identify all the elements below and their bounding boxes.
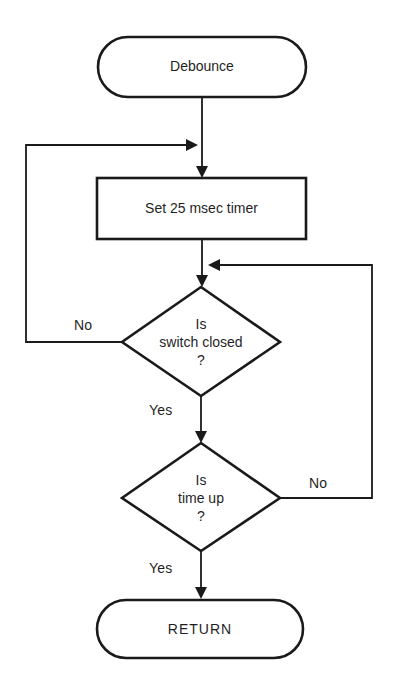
- arrowhead-loop-right: [208, 259, 220, 271]
- arrowhead-into-timer: [196, 166, 208, 178]
- process-set-timer-label: Set 25 msec timer: [97, 200, 306, 217]
- decision-switch-closed-line3: ?: [122, 352, 280, 369]
- arrowhead-into-timeup: [195, 431, 207, 443]
- edge-time-no-loop: [216, 265, 372, 498]
- edge-label-time-no: No: [309, 475, 327, 492]
- decision-time-up-line3: ?: [122, 508, 280, 525]
- decision-time-up-line2: time up: [122, 490, 280, 507]
- terminal-end-label: RETURN: [97, 621, 303, 638]
- edge-label-time-yes: Yes: [149, 560, 172, 577]
- decision-switch-closed-line1: Is: [122, 316, 280, 333]
- arrowhead-loop-left: [186, 139, 198, 151]
- decision-time-up-line1: Is: [122, 472, 280, 489]
- decision-switch-closed-line2: switch closed: [122, 334, 280, 351]
- arrowhead-into-return: [195, 587, 207, 599]
- edge-label-switch-yes: Yes: [149, 402, 172, 419]
- arrowhead-into-switch: [196, 275, 208, 287]
- terminal-start-label: Debounce: [98, 58, 306, 75]
- edge-label-switch-no: No: [74, 317, 92, 334]
